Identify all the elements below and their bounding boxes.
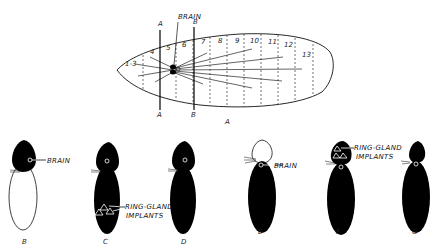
segment-label: 6 bbox=[182, 41, 187, 49]
segment-numbers: 1-3 4 5 6 7 8 9 10 11 12 13 bbox=[125, 37, 311, 68]
larva-c-label-line1: RING-GLAND bbox=[125, 203, 173, 211]
brain-label: BRAIN bbox=[178, 13, 202, 21]
cut-a-bottom-label: A bbox=[156, 111, 162, 119]
cut-b-top-label: B bbox=[193, 18, 198, 26]
larva-b: BRAIN B bbox=[9, 140, 71, 246]
larva-e-body bbox=[248, 161, 276, 233]
cut-b-bottom-label: B bbox=[191, 111, 196, 119]
segment-label: 1-3 bbox=[125, 60, 136, 68]
larva-g-body bbox=[402, 161, 430, 233]
larva-g: G bbox=[401, 141, 430, 236]
segment-label: 9 bbox=[235, 37, 240, 45]
figure-canvas: BRAIN A A B B 1-3 4 5 6 7 8 9 10 11 12 1… bbox=[0, 0, 436, 250]
larva-f-label-line2: IMPLANTS bbox=[356, 153, 394, 161]
segment-label: 8 bbox=[218, 37, 223, 45]
larva-c: RING-GLAND IMPLANTS C bbox=[91, 142, 173, 246]
cut-a-top-label: A bbox=[157, 20, 163, 28]
larva-d-body bbox=[170, 166, 196, 234]
segment-label: 11 bbox=[268, 38, 277, 46]
larva-c-label-line2: IMPLANTS bbox=[126, 212, 164, 220]
larva-d-caption: D bbox=[181, 238, 187, 246]
larva-g-spiracle bbox=[401, 161, 410, 164]
larva-c-body bbox=[94, 166, 120, 234]
segment-label: 7 bbox=[201, 38, 206, 46]
larva-d: D bbox=[168, 141, 196, 246]
larva-e: BRAIN E bbox=[244, 140, 298, 236]
larva-g-caption: G bbox=[412, 228, 418, 236]
larva-g-head bbox=[409, 141, 425, 163]
larva-b-head bbox=[12, 140, 36, 172]
larva-f-label-line1: RING-GLAND bbox=[354, 144, 402, 152]
figure-a: BRAIN A A B B 1-3 4 5 6 7 8 9 10 11 12 1… bbox=[117, 13, 333, 126]
larva-b-label: BRAIN bbox=[47, 157, 71, 165]
larva-c-caption: C bbox=[103, 238, 108, 246]
larva-e-caption: E bbox=[258, 228, 263, 236]
segment-label: 4 bbox=[150, 48, 154, 56]
larva-e-head bbox=[252, 140, 272, 163]
brain-lobe-upper bbox=[170, 65, 176, 70]
larva-b-body bbox=[9, 164, 37, 230]
larva-f: RING-GLAND IMPLANTS F bbox=[325, 141, 402, 236]
larva-e-label: BRAIN bbox=[274, 162, 298, 170]
segment-label: 10 bbox=[250, 37, 259, 45]
figure-a-caption: A bbox=[224, 118, 230, 126]
larva-f-body bbox=[327, 163, 355, 235]
larva-outline bbox=[117, 34, 333, 107]
brain-lobe-lower bbox=[170, 70, 176, 75]
segment-label: 5 bbox=[166, 44, 171, 52]
segment-label: 13 bbox=[302, 51, 311, 59]
segment-label: 12 bbox=[284, 41, 293, 49]
larva-f-head bbox=[331, 141, 352, 165]
larva-b-caption: B bbox=[22, 238, 27, 246]
